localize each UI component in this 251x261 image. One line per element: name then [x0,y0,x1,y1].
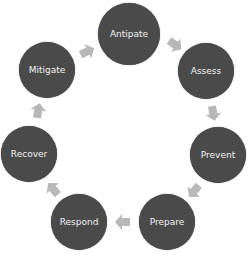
node-prepare: Prepare [139,194,195,250]
node-label: Antipate [110,29,148,39]
node-mitigate: Mitigate [19,42,75,98]
node-recover: Recover [1,126,57,182]
node-label: Prevent [201,150,235,160]
arrow-icon [115,214,130,230]
node-prevent: Prevent [190,127,246,183]
node-label: Prepare [150,217,185,227]
arrow-icon [77,41,97,62]
node-respond: Respond [51,194,107,250]
node-label: Assess [191,66,221,76]
arrow-icon [204,105,222,123]
arrow-icon [42,178,64,200]
node-label: Recover [11,149,47,159]
arrow-icon [164,34,185,56]
node-label: Respond [60,217,99,227]
node-label: Mitigate [29,65,66,75]
arrow-icon [183,180,205,202]
node-antipate: Antipate [98,3,160,65]
node-assess: Assess [178,43,234,99]
arrow-icon [29,102,47,120]
